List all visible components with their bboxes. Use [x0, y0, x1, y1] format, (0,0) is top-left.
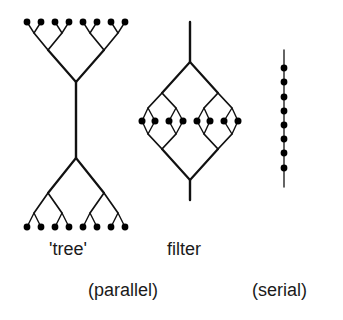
serial-node-icon	[281, 165, 288, 172]
filter-node-icon	[152, 118, 159, 125]
leaf-node-icon	[108, 224, 115, 231]
leaf-node-icon	[24, 224, 31, 231]
leaf-node-icon	[52, 19, 59, 26]
leaf-node-icon	[38, 19, 45, 26]
filter-node-icon	[221, 118, 228, 125]
diagram-canvas	[0, 0, 343, 320]
parallel-label: (parallel)	[88, 281, 158, 299]
serial-node-icon	[281, 79, 288, 86]
serial-node-icon	[281, 150, 288, 157]
filter-node-icon	[180, 118, 187, 125]
filter-node-icon	[166, 118, 173, 125]
leaf-node-icon	[66, 19, 73, 26]
filter-node-icon	[235, 118, 242, 125]
leaf-node-icon	[94, 19, 101, 26]
leaf-node-icon	[122, 224, 129, 231]
serial-node-icon	[281, 122, 288, 129]
tree-label: 'tree'	[49, 240, 87, 258]
leaf-node-icon	[108, 19, 115, 26]
filter-label: filter	[167, 240, 201, 258]
leaf-node-icon	[94, 224, 101, 231]
serial-node-icon	[281, 94, 288, 101]
leaf-node-icon	[52, 224, 59, 231]
tree-bottom-leaves	[24, 224, 129, 231]
filter-node-icon	[139, 118, 146, 125]
filter-nodes	[139, 118, 242, 125]
filter-diagram	[139, 22, 242, 200]
leaf-node-icon	[122, 19, 129, 26]
filter-node-icon	[194, 118, 201, 125]
leaf-node-icon	[24, 19, 31, 26]
serial-diagram	[281, 50, 288, 187]
serial-node-icon	[281, 65, 288, 72]
leaf-node-icon	[66, 224, 73, 231]
leaf-node-icon	[80, 19, 87, 26]
tree-top-leaves	[24, 19, 129, 26]
serial-node-icon	[281, 108, 288, 115]
serial-label: (serial)	[252, 281, 307, 299]
serial-node-icon	[281, 136, 288, 143]
leaf-node-icon	[38, 224, 45, 231]
tree-diagram-top	[24, 19, 129, 82]
filter-node-icon	[207, 118, 214, 125]
leaf-node-icon	[80, 224, 87, 231]
tree-diagram-bottom	[24, 158, 129, 230]
